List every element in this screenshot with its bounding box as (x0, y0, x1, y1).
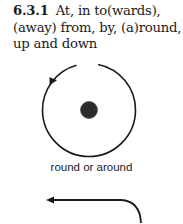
caption-text: round or around (51, 161, 133, 173)
figure-caption: round or around (0, 161, 183, 173)
figure-diagrams (0, 0, 183, 223)
curved-left-arrow-icon (46, 197, 141, 224)
center-dot-icon (81, 102, 98, 119)
